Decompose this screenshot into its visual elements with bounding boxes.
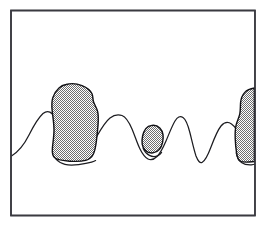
- blob-right-clipped: [235, 88, 254, 162]
- blob-small-center: [142, 125, 163, 153]
- curve-group: [12, 112, 255, 163]
- figure-canvas: [0, 0, 266, 229]
- blob-large-left: [52, 84, 99, 162]
- frame-clip-mask-right: [256, 0, 266, 229]
- plot-frame-overlay: [11, 11, 255, 216]
- profile-curve: [12, 112, 255, 163]
- plot-frame: [11, 11, 255, 216]
- figure-root: [0, 0, 266, 229]
